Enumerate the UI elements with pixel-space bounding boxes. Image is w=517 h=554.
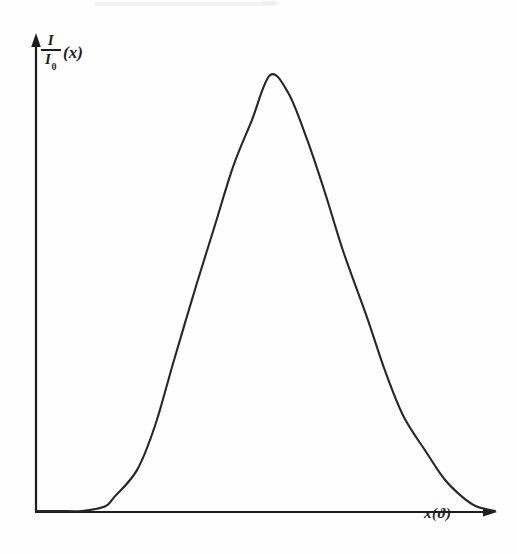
x-axis-label: x(ϑ) xyxy=(424,505,451,522)
y-axis-argument: (x) xyxy=(63,44,83,61)
y-axis-label: I I0 (x) xyxy=(41,33,83,70)
y-axis-denominator-subscript: 0 xyxy=(51,61,57,72)
plot-area xyxy=(0,0,517,554)
y-axis-denominator: I0 xyxy=(42,51,60,70)
y-axis-arrowhead-icon xyxy=(31,33,41,47)
figure-canvas: I I0 (x) x(ϑ) xyxy=(0,0,517,554)
intensity-curve xyxy=(36,74,495,511)
y-axis-numerator: I xyxy=(45,33,57,49)
y-axis-fraction: I I0 xyxy=(41,33,61,70)
